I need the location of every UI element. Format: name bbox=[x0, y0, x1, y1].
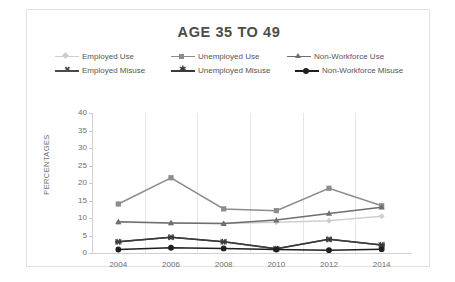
y-axis-tick-mark bbox=[89, 166, 92, 167]
square-data-point-marker bbox=[274, 208, 279, 213]
y-axis-tick-mark bbox=[89, 148, 92, 149]
circle-data-point-marker bbox=[273, 247, 279, 253]
diamond-data-point-marker bbox=[326, 218, 332, 224]
y-axis-tick-mark bbox=[89, 183, 92, 184]
series-line bbox=[118, 237, 381, 249]
square-data-point-marker bbox=[221, 206, 226, 211]
y-axis-tick-mark bbox=[89, 218, 92, 219]
circle-data-point-marker bbox=[221, 246, 227, 252]
series-non-workforce-misuse bbox=[115, 245, 384, 253]
chart-plot-lines bbox=[27, 10, 431, 268]
square-data-point-marker bbox=[168, 175, 173, 180]
y-axis-tick-mark bbox=[89, 253, 92, 254]
series-employed-use bbox=[115, 213, 384, 226]
diamond-data-point-marker bbox=[379, 213, 385, 219]
circle-data-point-marker bbox=[168, 245, 174, 251]
series-line bbox=[118, 178, 381, 211]
circle-data-point-marker bbox=[326, 247, 332, 253]
circle-data-point-marker bbox=[115, 247, 121, 253]
y-axis-tick-mark bbox=[89, 131, 92, 132]
y-axis-tick-mark bbox=[89, 236, 92, 237]
y-axis-tick-mark bbox=[89, 201, 92, 202]
chart-container: AGE 35 TO 49 Employed Use Unemployed Use bbox=[26, 9, 430, 267]
circle-data-point-marker bbox=[379, 246, 385, 252]
square-data-point-marker bbox=[326, 186, 331, 191]
series-unemployed-use bbox=[116, 175, 385, 213]
series-line bbox=[118, 248, 381, 250]
y-axis-tick-mark bbox=[89, 113, 92, 114]
square-data-point-marker bbox=[116, 201, 121, 206]
